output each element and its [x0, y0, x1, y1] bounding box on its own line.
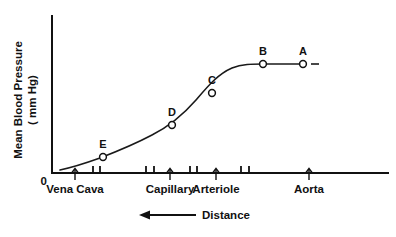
x-label-vena-cava: Vena Cava: [46, 183, 104, 195]
point-label-A: A: [299, 45, 307, 57]
x-label-arteriole: Arteriole: [192, 183, 239, 195]
point-label-E: E: [99, 138, 106, 150]
data-point-E: [100, 154, 107, 161]
point-label-D: D: [168, 106, 176, 118]
data-point-D: [169, 122, 176, 129]
point-label-C: C: [208, 74, 216, 86]
y-axis-title-line1: Mean Blood Pressure: [12, 41, 24, 159]
blood-pressure-distance-chart: Mean Blood Pressure ( mm Hg) 0: [0, 0, 396, 237]
x-label-aorta: Aorta: [294, 183, 325, 195]
y-axis-title-line2: ( mm Hg): [26, 75, 38, 125]
point-label-B: B: [259, 45, 267, 57]
data-point-A: [300, 61, 307, 68]
data-point-B: [260, 61, 267, 68]
data-point-C: [209, 90, 216, 97]
x-label-capillary: Capillary: [146, 183, 195, 195]
chart-background: [0, 0, 396, 237]
distance-label: Distance: [202, 209, 250, 221]
